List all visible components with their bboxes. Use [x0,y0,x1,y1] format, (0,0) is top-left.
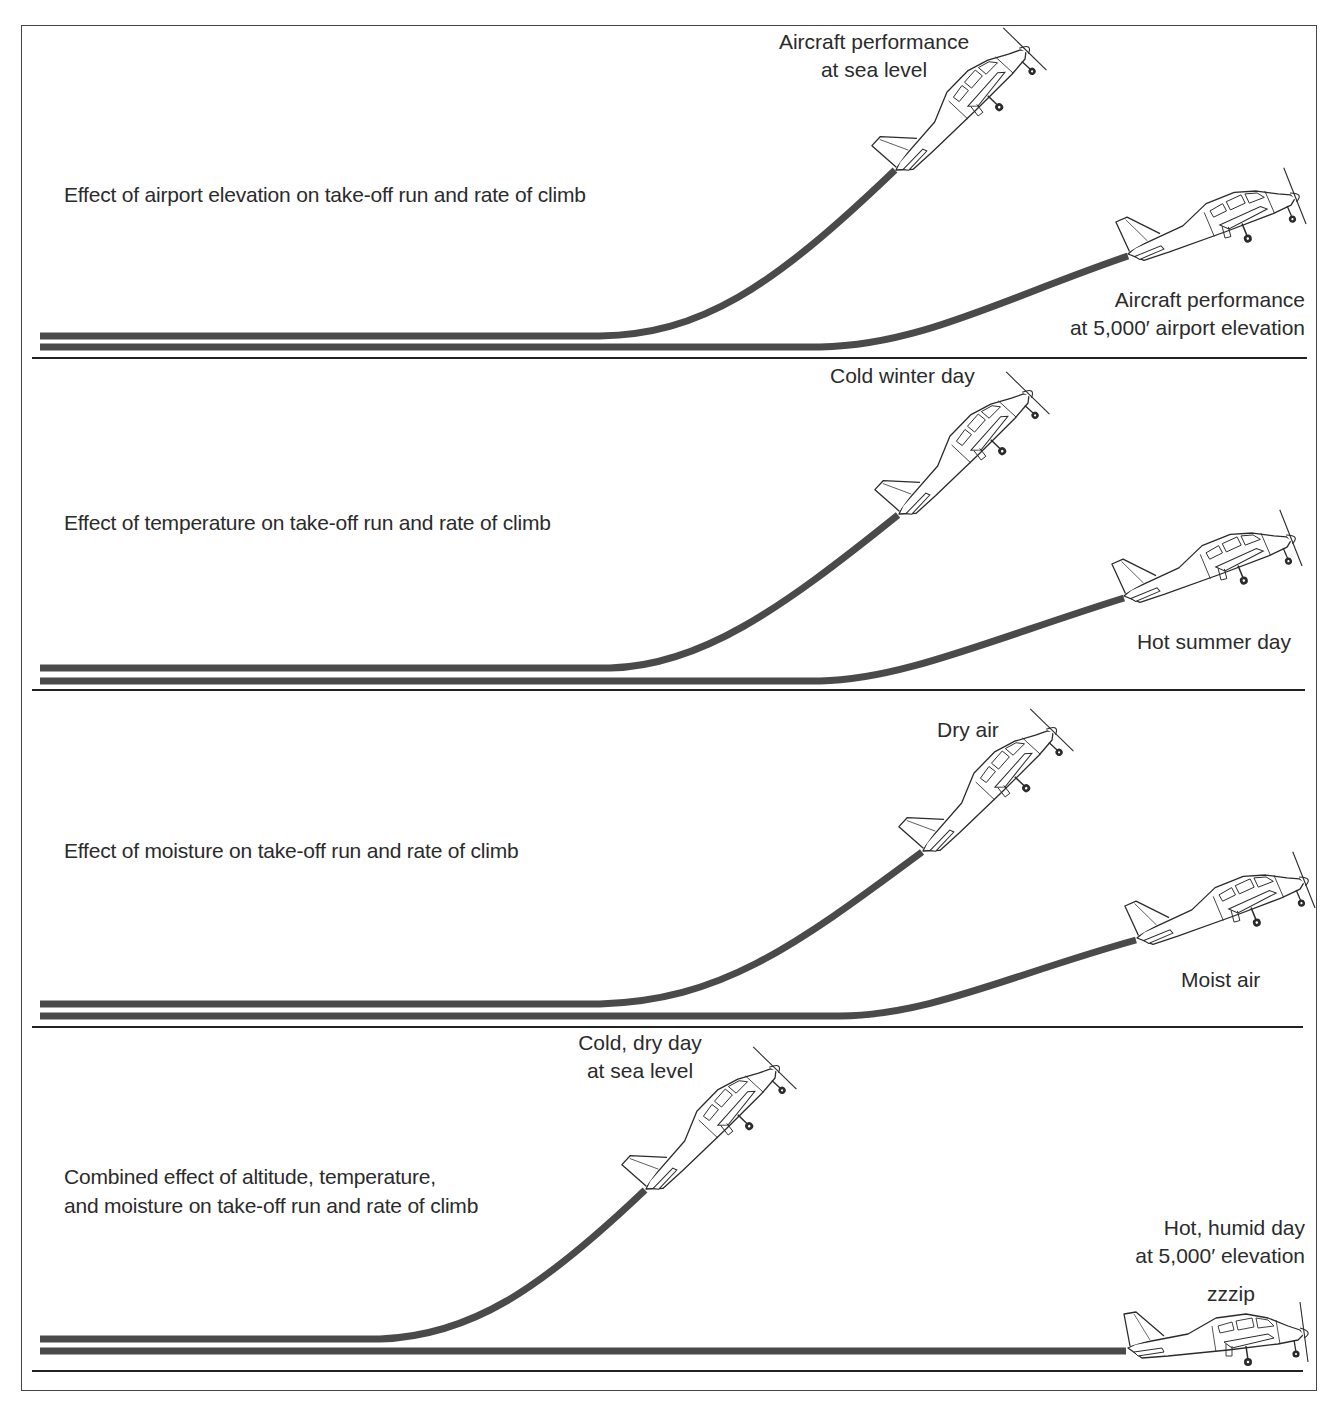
aircraft-icon-climbing-steep [868,367,1053,531]
panel-caption-temperature: Effect of temperature on take-off run an… [64,508,551,537]
aircraft-icon-on-runway [1124,1302,1308,1366]
sound-effect-zzzip: zzzip [1207,1280,1255,1308]
takeoff-trail-cold [40,515,898,668]
label-hot-humid-5000ft: Hot, humid day at 5,000′ elevation [1060,1214,1305,1270]
panel-caption-moisture: Effect of moisture on take-off run and r… [64,836,519,865]
label-sea-level: Aircraft performance at sea level [744,28,1004,84]
label-cold-dry-sea-level: Cold, dry day at sea level [540,1029,740,1085]
label-moist-air: Moist air [1181,966,1260,994]
takeoff-trail-dry [40,852,922,1004]
label-5000ft-elevation: Aircraft performance at 5,000′ airport e… [1000,286,1305,342]
aircraft-icon-climbing-shallow [1109,508,1303,615]
label-cold-winter-day: Cold winter day [830,362,975,390]
aircraft-icon-climbing-shallow [1122,850,1316,957]
panel-caption-combined: Combined effect of altitude, temperature… [64,1162,478,1220]
aircraft-icon-climbing-shallow [1113,166,1307,273]
panel-caption-elevation: Effect of airport elevation on take-off … [64,180,586,209]
label-dry-air: Dry air [937,716,999,744]
panel-moisture [32,704,1316,1027]
label-hot-summer-day: Hot summer day [1060,628,1291,656]
